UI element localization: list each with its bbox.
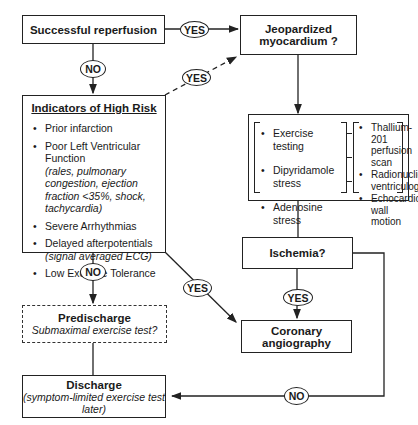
edge-label-yes: YES [283,289,313,306]
edge-label-no: NO [80,263,106,281]
discharge-node: Discharge (symptom-limited exercise test… [22,375,166,418]
high-risk-indicators-node: Indicators of High Risk Prior infarction… [22,95,166,253]
edge-label-no: NO [80,60,106,78]
edge-label-no: NO [284,387,309,405]
stress-methods-list: Exercise testing Dipyridamole stress Ade… [259,127,344,231]
connector-dash [346,157,352,158]
risk-item: Poor Left Ventricular Function(rales, pu… [31,140,157,215]
imaging-method: Radionuclideventriculography [357,169,409,192]
successful-reperfusion-node: Successful reperfusion [22,15,165,44]
connector-dash [346,181,352,182]
node-label: Ischemia? [269,247,325,259]
predischarge-node: Predischarge Submaximal exercise test? [22,305,167,343]
node-subtitle: (symptom-limited exercise test later) [23,391,165,415]
node-label: Successful reperfusion [30,24,157,36]
stress-method: Dipyridamole stress [259,164,344,189]
imaging-method: Echocardiographicwall motion [357,193,409,228]
node-label-line2: myocardium ? [259,35,338,47]
edge-label-yes: YES [183,279,212,297]
connector-dash [346,133,352,134]
edge-label-yes: YES [182,69,211,86]
stress-method: Exercise testing [259,127,344,152]
edge-label-yes: YES [180,21,209,38]
node-label: Coronary angiography [242,325,351,349]
risk-item: Prior infarction [31,122,157,135]
coronary-angiography-node: Coronary angiography [241,320,352,353]
node-title: Discharge [66,379,122,391]
imaging-methods-list: Thallium-201perfusion scan Radionuclidev… [357,122,409,228]
jeopardized-myocardium-node: Jeopardized myocardium ? [240,15,357,55]
risk-item: Severe Arrhythmias [31,220,157,233]
node-title: Predischarge [58,312,131,324]
high-risk-title: Indicators of High Risk [31,102,157,114]
high-risk-list: Prior infarction Poor Left Ventricular F… [31,122,157,280]
imaging-method: Thallium-201perfusion scan [357,122,409,168]
risk-item: Delayed afterpotentials(signal averaged … [31,237,157,262]
stress-method: Adenosine stress [259,201,344,226]
ischemia-node: Ischemia? [242,237,353,269]
noninvasive-tests-node: Exercise testing Dipyridamole stress Ade… [248,114,409,201]
node-label-line1: Jeopardized [265,23,332,35]
node-subtitle: Submaximal exercise test? [32,324,157,336]
